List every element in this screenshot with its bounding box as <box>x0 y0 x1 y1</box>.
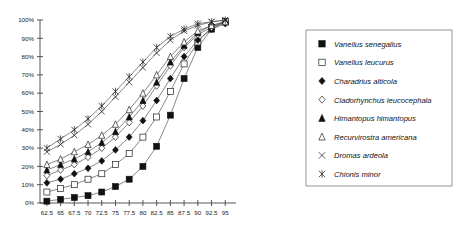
data-point-marker-open-square <box>44 189 50 195</box>
ogive-chart: 0%10%20%30%40%50%60%70%80%90%100% 62.565… <box>0 0 456 234</box>
legend-item[interactable]: Recurvirostra americana <box>319 133 417 142</box>
data-point-marker-open-square <box>319 59 325 65</box>
data-point-marker-filled-square <box>44 198 50 204</box>
data-point-marker-open-square <box>181 61 187 67</box>
data-point-marker-open-square <box>71 182 77 188</box>
data-point-marker-open-square <box>167 88 173 94</box>
x-axis-tick-label: 70 <box>85 209 92 216</box>
data-point-marker-filled-square <box>126 176 132 182</box>
chart-container: 0%10%20%30%40%50%60%70%80%90%100% 62.565… <box>0 0 456 234</box>
legend-item-label: Vanellus leucurus <box>334 58 394 67</box>
x-axis-tick-label: 77.5 <box>123 209 136 216</box>
data-point-marker-filled-square <box>58 196 64 202</box>
x-axis-tick-label: 62.5 <box>41 209 54 216</box>
chart-legend: Vanellus senegallusVanellus leucurusChar… <box>306 30 452 186</box>
data-point-marker-filled-square <box>319 41 325 47</box>
data-point-marker-filled-square <box>167 112 173 118</box>
legend-item-label: Vanellus senegallus <box>334 40 401 49</box>
y-axis-tick-label: 80% <box>22 53 35 60</box>
y-axis-tick-label: 50% <box>22 108 35 115</box>
data-point-marker-filled-square <box>181 76 187 82</box>
y-axis-tick-label: 100% <box>18 16 34 23</box>
y-axis-tick-label: 30% <box>22 144 35 151</box>
legend-item[interactable]: Himantopus himantopus <box>319 114 416 123</box>
y-axis-tick-label: 60% <box>22 89 35 96</box>
data-point-marker-open-square <box>154 114 160 120</box>
legend-item-label: Dromas ardeola <box>334 151 388 160</box>
data-point-marker-filled-square <box>112 184 118 190</box>
data-point-marker-open-square <box>85 176 91 182</box>
y-axis-tick-label: 70% <box>22 71 35 78</box>
data-point-marker-filled-square <box>85 193 91 199</box>
x-axis-tick-label: 82.5 <box>151 209 164 216</box>
x-axis-tick-label: 65 <box>57 209 64 216</box>
legend-border <box>306 30 452 186</box>
x-axis-tick-label: 92.5 <box>206 209 219 216</box>
x-axis-tick-label: 72.5 <box>96 209 109 216</box>
y-axis-tick-label: 0% <box>25 199 34 206</box>
x-axis-tick-label: 80 <box>139 209 146 216</box>
legend-item-label: Cladorhynchus leucocephala <box>334 96 432 105</box>
data-point-marker-filled-square <box>140 163 146 169</box>
data-point-marker-open-square <box>112 162 118 168</box>
data-point-marker-open-square <box>140 134 146 140</box>
x-axis-tick-label: 67.5 <box>68 209 81 216</box>
y-axis-tick-label: 40% <box>22 126 35 133</box>
legend-item-label: Himantopus himantopus <box>334 114 416 123</box>
legend-item-label: Charadrius alticola <box>334 77 397 86</box>
y-axis-tick-label: 20% <box>22 163 35 170</box>
data-point-marker-filled-square <box>71 195 77 201</box>
x-axis-tick-label: 85 <box>167 209 174 216</box>
data-point-marker-filled-square <box>99 189 105 195</box>
legend-item-label: Recurvirostra americana <box>334 133 417 142</box>
legend-item-label: Chionis minor <box>334 170 381 179</box>
y-axis-tick-label: 90% <box>22 35 35 42</box>
data-point-marker-open-square <box>99 171 105 177</box>
x-axis-tick-label: 75 <box>112 209 119 216</box>
x-axis-tick-label: 95 <box>222 209 229 216</box>
data-point-marker-open-square <box>58 185 64 191</box>
x-axis-tick-label: 87.5 <box>178 209 191 216</box>
data-point-marker-open-square <box>126 151 132 157</box>
data-point-marker-filled-square <box>154 143 160 149</box>
y-axis-tick-label: 10% <box>22 181 35 188</box>
legend-item[interactable]: Cladorhynchus leucocephala <box>319 96 432 105</box>
x-axis-tick-label: 90 <box>194 209 201 216</box>
